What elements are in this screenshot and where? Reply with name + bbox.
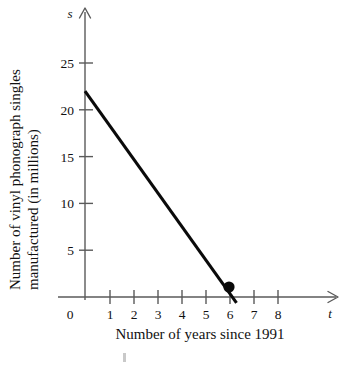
y-tick-label-15: 15	[61, 150, 75, 165]
chart-figure: s t 5 10 15 20 25 0 1 2 3 4 5 6 7 8 Numb…	[0, 0, 345, 369]
y-axis	[80, 8, 91, 300]
scan-artifact	[123, 353, 126, 362]
x-tick-label-0: 0	[67, 307, 74, 322]
x-tick-label-7: 7	[251, 307, 258, 322]
x-tick-label-1: 1	[107, 307, 114, 322]
y-tick-label-5: 5	[67, 243, 74, 258]
x-tick-label-6: 6	[227, 307, 234, 322]
line-chart-plot: s t 5 10 15 20 25 0 1 2 3 4 5 6 7 8 Numb…	[0, 0, 345, 369]
x-tick-label-5: 5	[203, 307, 210, 322]
data-line-vinyl-singles	[85, 91, 237, 303]
data-point-marker	[223, 281, 234, 292]
x-tick-label-2: 2	[131, 307, 138, 322]
x-axis-tick-labels: 0 1 2 3 4 5 6 7 8	[67, 307, 282, 322]
x-axis-symbol: t	[328, 306, 332, 321]
y-axis-title-line-1: Number of vinyl phonograph singles	[7, 69, 23, 290]
x-tick-label-8: 8	[275, 307, 282, 322]
y-tick-label-20: 20	[61, 103, 75, 118]
x-axis	[58, 292, 338, 303]
y-tick-label-25: 25	[61, 56, 75, 71]
y-axis-title-line-2: manufactured (in millions)	[25, 129, 42, 290]
y-tick-label-10: 10	[61, 196, 75, 211]
y-axis-title: Number of vinyl phonograph singles manuf…	[7, 69, 42, 290]
y-axis-symbol: s	[67, 6, 72, 21]
x-tick-label-4: 4	[179, 307, 186, 322]
x-axis-title: Number of years since 1991	[115, 326, 284, 342]
x-tick-label-3: 3	[155, 307, 162, 322]
y-axis-tick-labels: 5 10 15 20 25	[61, 56, 75, 258]
